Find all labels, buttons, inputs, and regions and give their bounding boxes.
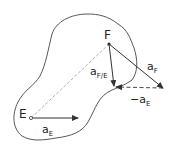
label-a-f: aF	[147, 57, 158, 73]
label-a-e: aE	[42, 120, 53, 136]
vector-a-fe-arrow	[109, 44, 114, 86]
point-e-label: E	[19, 108, 27, 120]
point-e-marker	[29, 116, 32, 119]
label-neg-a-e: −aE	[130, 90, 150, 106]
vector-neg-a-e-arrow	[116, 87, 163, 88]
point-f-marker	[107, 42, 110, 45]
position-line-ef	[31, 44, 109, 118]
point-f-label: F	[104, 29, 111, 41]
body-outline	[14, 14, 137, 140]
rigid-body-diagram	[0, 0, 175, 147]
label-a-fe: aF/E	[90, 62, 108, 78]
